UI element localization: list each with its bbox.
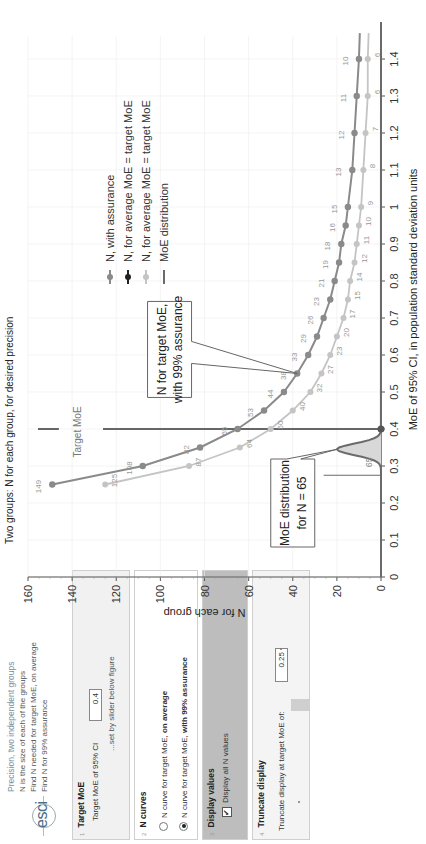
legend-label: N, with assurance	[104, 175, 116, 262]
legend-label: N, for average MoE = target MoE	[140, 100, 152, 262]
x-tick-label: 0.1	[388, 532, 400, 547]
data-point-assurance	[314, 333, 320, 339]
data-point-assurance	[49, 481, 55, 487]
y-tick-label: 40	[287, 585, 299, 597]
data-point-average	[268, 426, 274, 432]
data-point-assurance	[349, 167, 355, 173]
data-label-assurance: 108	[125, 461, 134, 475]
y-tick-label: 60	[243, 585, 255, 597]
data-label-average: 8	[368, 163, 377, 168]
y-tick-label: 140	[66, 585, 78, 603]
data-point-assurance	[140, 463, 146, 469]
data-label-average: 12	[360, 254, 369, 263]
data-label-average: 125	[110, 473, 119, 487]
callout-moe-line2: for N = 65	[295, 476, 309, 529]
data-point-average	[318, 371, 324, 377]
data-label-assurance: 16	[328, 223, 337, 232]
data-label-average: 64	[245, 439, 254, 448]
data-label-assurance: 12	[337, 130, 346, 139]
data-point-assurance	[327, 296, 333, 302]
data-label-assurance: 44	[266, 389, 275, 398]
data-point-average	[356, 223, 362, 229]
data-label-assurance: 10	[341, 56, 350, 65]
data-point-assurance	[281, 389, 287, 395]
data-label-average: 15	[353, 291, 362, 300]
legend-marker	[143, 274, 149, 280]
data-label-average: 6	[373, 52, 382, 57]
data-label-assurance: 82	[182, 445, 191, 454]
data-point-average	[345, 297, 351, 303]
data-label-average: 6	[373, 89, 382, 94]
x-tick-label: 0.2	[388, 495, 400, 510]
x-tick-label: 1.1	[388, 162, 400, 177]
data-label-average: 87	[194, 457, 203, 466]
data-point-average	[365, 93, 371, 99]
data-point-average	[363, 130, 369, 136]
data-point-average	[334, 334, 340, 340]
data-label-average: 23	[335, 346, 344, 355]
data-point-assurance	[345, 204, 351, 210]
x-tick-label: 1	[388, 204, 400, 210]
data-label-assurance: 21	[317, 278, 326, 287]
x-tick-label: 0.3	[388, 458, 400, 473]
data-point-average	[307, 389, 313, 395]
callout-assurance-line1: N for target MoE,	[155, 304, 169, 395]
legend-label: N, for average MoE = target MoE	[122, 100, 134, 262]
x-tick-label: 0.5	[388, 384, 400, 399]
data-point-assurance	[197, 444, 203, 450]
data-label-assurance: 18	[323, 241, 332, 250]
data-label-average: 32	[315, 383, 324, 392]
data-label-assurance: 15	[330, 204, 339, 213]
data-label-assurance: 23	[312, 297, 321, 306]
y-tick-label: 120	[110, 585, 122, 603]
x-tick-label: 0.9	[388, 236, 400, 251]
x-tick-label: 1.4	[388, 51, 400, 66]
data-point-average	[340, 315, 346, 321]
x-axis-label: MoE of 95% CI, in population standard de…	[407, 168, 419, 430]
data-label-average: 10	[364, 217, 373, 226]
data-point-average	[365, 56, 371, 62]
y-tick-label: 80	[199, 585, 211, 597]
data-label-average: 9	[366, 200, 375, 205]
callout-moe-line1: MoE distribution	[278, 460, 292, 546]
data-point-average	[352, 260, 358, 266]
x-tick-label: 0.4	[388, 421, 400, 436]
data-label-assurance: 13	[334, 167, 343, 176]
moe-distribution-fill	[337, 429, 381, 473]
callout-assurance-line2: with 99% assurance	[171, 295, 185, 404]
legend-marker	[125, 274, 131, 280]
y-tick-label: 20	[331, 585, 343, 597]
data-point-assurance	[261, 407, 267, 413]
y-tick-label: 100	[154, 585, 166, 603]
data-point-assurance	[305, 352, 311, 358]
data-label-assurance: 11	[339, 93, 348, 102]
x-tick-label: 1.3	[388, 88, 400, 103]
x-tick-label: 1.2	[388, 125, 400, 140]
data-point-assurance	[351, 130, 357, 136]
data-label-average: 14	[355, 272, 364, 281]
data-point-average	[358, 204, 364, 210]
data-label-assurance: 65	[220, 426, 229, 435]
data-label-average: 40	[298, 402, 307, 411]
chart: 02040608010012014016000.10.20.30.40.50.6…	[0, 0, 426, 844]
data-point-assurance	[234, 426, 240, 432]
data-point-average	[290, 408, 296, 414]
data-label-average: 7	[371, 126, 380, 131]
data-point-assurance	[343, 222, 349, 228]
data-point-assurance	[320, 315, 326, 321]
x-tick-label: 0	[388, 574, 400, 580]
data-label-average: 20	[342, 328, 351, 337]
data-label-assurance: 29	[299, 334, 308, 343]
data-point-assurance	[336, 259, 342, 265]
data-point-average	[327, 352, 333, 358]
data-label-assurance: 53	[246, 408, 255, 417]
data-point-average	[237, 445, 243, 451]
x-tick-label: 0.6	[388, 347, 400, 362]
data-point-assurance	[354, 93, 360, 99]
target-moe-point	[378, 426, 385, 433]
moe-dist-n-label: 65	[364, 457, 374, 467]
data-point-assurance	[338, 241, 344, 247]
data-point-average	[347, 278, 353, 284]
legend-label: MoE distribution	[158, 183, 170, 262]
app-window: esci Precision, two independent groups N…	[0, 0, 426, 844]
